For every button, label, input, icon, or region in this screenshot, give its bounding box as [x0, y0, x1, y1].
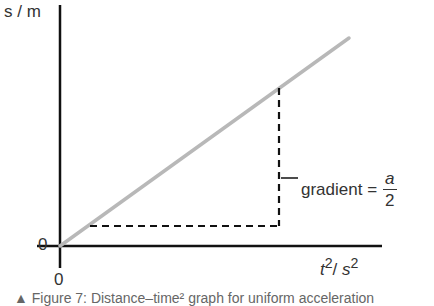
y-axis-label: s / m — [4, 2, 41, 22]
origin-y-label: 0 — [38, 235, 47, 255]
gradient-annotation: gradient = a 2 — [301, 170, 397, 209]
origin-x-label: 0 — [54, 270, 63, 290]
x-axis-sep: / — [333, 260, 342, 279]
data-line — [60, 38, 349, 246]
gradient-denominator: 2 — [385, 190, 394, 209]
gradient-text: gradient = — [301, 180, 377, 200]
figure-caption: ▲ Figure 7: Distance–time² graph for uni… — [14, 290, 374, 306]
x-axis-label: t2/ s2 — [320, 255, 358, 280]
x-axis-unit-sup: 2 — [351, 255, 359, 271]
x-axis-unit: s — [342, 260, 351, 279]
gradient-fraction: a 2 — [383, 170, 396, 209]
x-axis-var-sup: 2 — [325, 255, 333, 271]
gradient-numerator: a — [383, 170, 396, 190]
